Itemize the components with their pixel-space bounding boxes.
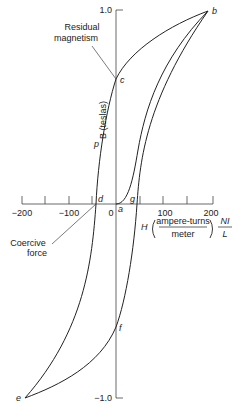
right-paren bbox=[210, 220, 213, 238]
left-paren bbox=[153, 220, 156, 238]
h-symbol: H bbox=[141, 222, 148, 232]
coercive-label-2: force bbox=[27, 248, 47, 258]
point-d: d bbox=[98, 194, 104, 204]
point-a: a bbox=[118, 204, 123, 214]
x-tick-label: −100 bbox=[59, 208, 79, 218]
point-f: f bbox=[119, 323, 123, 333]
residual-label-1: Residual bbox=[64, 22, 99, 32]
residual-leader bbox=[92, 46, 116, 79]
descending-branch bbox=[25, 11, 208, 398]
point-b: b bbox=[212, 6, 217, 16]
coercive-label-1: Coercive bbox=[10, 238, 46, 248]
y-top-label: 1.0 bbox=[99, 5, 112, 15]
residual-label-2: magnetism bbox=[54, 33, 98, 43]
units-denominator: meter bbox=[171, 229, 194, 239]
point-e: e bbox=[16, 393, 21, 403]
y-bottom-label: −1.0 bbox=[94, 393, 112, 403]
y-axis-title: B (teslas) bbox=[98, 101, 108, 139]
point-g: g bbox=[130, 194, 135, 204]
units-numerator: ampere-turns bbox=[156, 216, 210, 226]
h-ticks bbox=[22, 196, 213, 204]
x-tick-label: −200 bbox=[12, 208, 32, 218]
initial-magnetization-curve bbox=[116, 11, 208, 204]
point-p: p bbox=[93, 139, 99, 149]
point-c: c bbox=[120, 75, 125, 85]
l-label: L bbox=[222, 229, 227, 239]
hysteresis-diagram: 1.0 −1.0 B (teslas) −200 −100 0 100 200 … bbox=[0, 0, 251, 407]
x-tick-label: 0 bbox=[108, 208, 113, 218]
ascending-branch bbox=[25, 11, 208, 398]
ni-label: NI bbox=[221, 216, 230, 226]
